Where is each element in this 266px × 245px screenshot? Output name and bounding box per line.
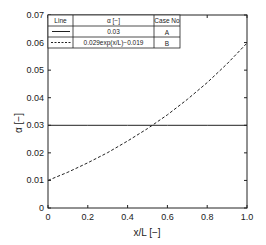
x-tick-label: 0.4	[121, 212, 134, 222]
chart: 00.010.020.030.040.050.060.07 00.20.40.6…	[0, 0, 266, 245]
legend-header-case: Case No	[154, 17, 180, 24]
y-tick-label: 0.07	[26, 10, 44, 20]
y-tick-label: 0.02	[26, 148, 44, 158]
legend-row-b-case: B	[165, 40, 169, 47]
y-tick-label: 0.06	[26, 38, 44, 48]
legend-row-a-alpha: 0.03	[107, 28, 120, 35]
y-tick-label: 0.04	[26, 93, 44, 103]
x-tick-label: 0.6	[161, 212, 174, 222]
x-tick-label: 0	[45, 212, 50, 222]
y-tick-label: 0.05	[26, 65, 44, 75]
y-tick-label: 0.03	[26, 120, 44, 130]
legend-table: Line α [−] Case No 0.03 A 0.029exp(x/L)−…	[48, 15, 180, 48]
x-axis-label: x/L [−]	[133, 227, 160, 238]
y-axis-label: α [−]	[13, 113, 24, 133]
legend-header-alpha: α [−]	[107, 17, 120, 25]
y-tick-label: 0.01	[26, 175, 44, 185]
x-tick-label: 0.8	[201, 212, 214, 222]
legend-header-line: Line	[54, 17, 67, 24]
series-b-line	[48, 43, 247, 180]
x-tick-label: 0.2	[82, 212, 95, 222]
legend-row-b-alpha: 0.029exp(x/L)−0.019	[84, 39, 144, 47]
y-tick-label: 0	[39, 203, 44, 213]
x-tick-label: 1.0	[241, 212, 254, 222]
legend-row-a-case: A	[165, 29, 170, 36]
